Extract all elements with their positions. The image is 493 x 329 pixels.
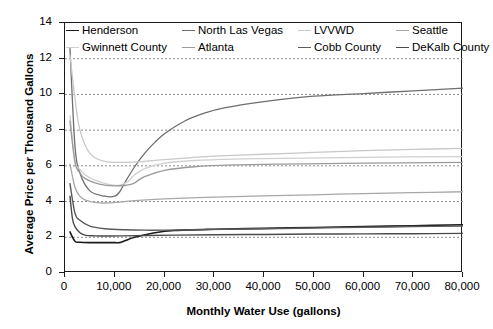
y-tick-label: 2 [12,230,52,240]
y-tick-label: 10 [12,87,52,97]
y-tick-label: 4 [12,195,52,205]
y-tick-label: 14 [12,16,52,26]
series-line-lvvwd [70,55,463,162]
series-line-cobb-county [70,184,463,230]
x-tick-label: 80,000 [432,280,492,292]
series-canvas [65,23,463,273]
series-line-seattle [70,164,463,203]
y-tick-label: 8 [12,123,52,133]
series-line-north-las-vegas [70,48,463,197]
y-tick-label: 6 [12,159,52,169]
y-tick-label: 0 [12,266,52,276]
y-tick-label: 12 [12,52,52,62]
x-axis-title: Monthly Water Use (gallons) [64,305,463,317]
chart-figure: Average Price per Thousand Gallons Month… [0,0,493,329]
y-axis-title: Average Price per Thousand Gallons [23,29,35,279]
plot-area [64,22,462,272]
